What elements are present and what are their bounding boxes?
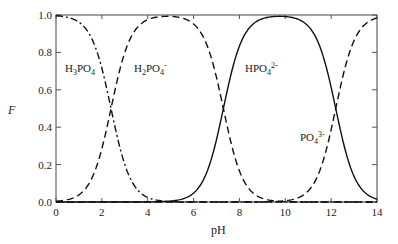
y-tick-label: 1.0 [38, 9, 52, 21]
curves [56, 16, 377, 202]
x-tick-label: 6 [191, 206, 197, 218]
curve-h3po4 [56, 16, 377, 202]
x-tick-label: 8 [237, 206, 243, 218]
y-tick-label: 0.6 [38, 84, 52, 96]
label-h3po4: H3PO4 [65, 62, 95, 77]
y-tick-label: 0.8 [38, 46, 52, 58]
x-axis-label: pH [211, 223, 226, 237]
x-tick-label: 14 [372, 206, 384, 218]
x-tick-label: 0 [53, 206, 59, 218]
x-tick-label: 2 [99, 206, 105, 218]
curve-hpo4 [56, 16, 377, 202]
label-hpo4: HPO42- [245, 61, 278, 77]
label-po4: PO43- [300, 130, 325, 146]
axis-ticks: 024681012140.00.20.40.60.81.0 [38, 9, 383, 218]
x-tick-label: 4 [145, 206, 151, 218]
y-tick-label: 0.2 [38, 159, 52, 171]
plot-frame [56, 15, 377, 202]
plot-border [56, 15, 377, 202]
y-tick-label: 0.4 [38, 121, 52, 133]
x-tick-label: 10 [280, 206, 292, 218]
label-h2po4: H2PO4- [134, 61, 167, 77]
species-distribution-chart: 024681012140.00.20.40.60.81.0 F pH H3PO4… [0, 0, 398, 244]
curve-h2po4 [56, 16, 377, 202]
y-axis-label: F [7, 103, 16, 117]
y-tick-label: 0.0 [38, 196, 52, 208]
x-tick-label: 12 [326, 206, 337, 218]
curve-po4 [56, 18, 377, 202]
